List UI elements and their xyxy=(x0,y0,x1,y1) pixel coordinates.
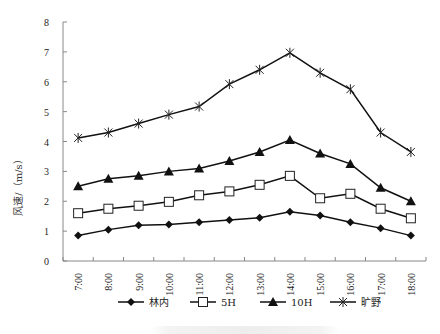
legend-label: 10H xyxy=(291,297,313,308)
square-marker xyxy=(316,194,325,203)
figure-caption-cropped xyxy=(150,326,340,334)
series-layer xyxy=(73,48,416,240)
diamond-marker xyxy=(127,298,135,306)
diamond-marker xyxy=(286,208,294,216)
series-2 xyxy=(73,135,416,205)
legend-item: 林内 xyxy=(118,296,169,308)
asterisk-marker xyxy=(135,119,143,129)
legend-label: 林内 xyxy=(149,296,169,308)
y-ticks: 012345678 xyxy=(44,17,67,267)
y-tick-label: 2 xyxy=(44,196,49,207)
square-marker xyxy=(225,187,234,196)
axes xyxy=(63,22,426,261)
diamond-marker xyxy=(225,216,233,224)
diamond-marker xyxy=(195,218,203,226)
y-tick-label: 5 xyxy=(44,107,49,118)
diamond-marker xyxy=(377,224,385,232)
legend-item: 旷野 xyxy=(330,297,381,308)
x-tick-label: 15:00 xyxy=(315,273,326,296)
asterisk-marker xyxy=(286,48,294,58)
series-1 xyxy=(74,171,416,222)
legend-label: 5H xyxy=(221,297,236,308)
x-tick-label: 12:00 xyxy=(224,273,235,296)
legend-item: 10H xyxy=(260,297,313,308)
y-tick-label: 0 xyxy=(44,256,49,267)
x-tick-label: 14:00 xyxy=(285,273,296,296)
asterisk-marker xyxy=(225,79,233,89)
y-tick-label: 4 xyxy=(44,137,49,148)
y-tick-label: 3 xyxy=(44,166,49,177)
series-line xyxy=(78,53,411,152)
diamond-marker xyxy=(407,232,415,240)
asterisk-marker xyxy=(377,128,385,138)
triangle-marker xyxy=(255,147,265,156)
diamond-marker xyxy=(104,226,112,234)
series-line xyxy=(78,140,411,201)
x-ticks: 7:008:009:0010:0011:0012:0013:0014:0015:… xyxy=(63,257,426,296)
line-chart: 012345678 7:008:009:0010:0011:0012:0013:… xyxy=(0,0,440,334)
square-marker xyxy=(376,204,385,213)
diamond-marker xyxy=(346,218,354,226)
x-tick-label: 11:00 xyxy=(194,273,205,295)
x-tick-label: 9:00 xyxy=(134,273,145,291)
y-axis-title: 风速/（m/s） xyxy=(13,154,24,215)
square-marker xyxy=(346,189,355,198)
diamond-marker xyxy=(135,221,143,229)
diamond-marker xyxy=(316,212,324,220)
asterisk-marker xyxy=(256,65,264,75)
x-tick-label: 16:00 xyxy=(345,273,356,296)
square-marker xyxy=(104,204,113,213)
series-0 xyxy=(74,208,415,240)
y-tick-label: 1 xyxy=(44,226,49,237)
diamond-marker xyxy=(165,221,173,229)
y-tick-label: 7 xyxy=(44,47,49,58)
square-marker xyxy=(134,201,143,210)
square-marker xyxy=(406,214,415,223)
triangle-marker xyxy=(285,135,295,144)
series-line xyxy=(78,212,411,236)
series-line xyxy=(78,176,411,218)
x-tick-label: 13:00 xyxy=(255,273,266,296)
x-tick-label: 7:00 xyxy=(73,273,84,291)
square-marker xyxy=(164,197,173,206)
y-tick-label: 6 xyxy=(44,77,49,88)
y-tick-label: 8 xyxy=(44,17,49,28)
legend-item: 5H xyxy=(190,297,236,308)
legend-label: 旷野 xyxy=(361,297,381,308)
square-marker xyxy=(195,191,204,200)
square-marker xyxy=(199,298,208,307)
diamond-marker xyxy=(74,232,82,240)
triangle-marker xyxy=(315,148,325,157)
triangle-marker xyxy=(406,196,416,205)
diamond-marker xyxy=(256,214,264,222)
series-3 xyxy=(74,48,415,157)
asterisk-marker xyxy=(316,68,324,78)
x-tick-label: 18:00 xyxy=(406,273,417,296)
square-marker xyxy=(285,171,294,180)
x-tick-label: 17:00 xyxy=(376,273,387,296)
x-tick-label: 10:00 xyxy=(164,273,175,296)
square-marker xyxy=(74,209,83,218)
legend: 林内5H10H旷野 xyxy=(118,296,381,308)
x-tick-label: 8:00 xyxy=(103,273,114,291)
asterisk-marker xyxy=(346,84,354,94)
square-marker xyxy=(255,180,264,189)
asterisk-marker xyxy=(407,147,415,157)
